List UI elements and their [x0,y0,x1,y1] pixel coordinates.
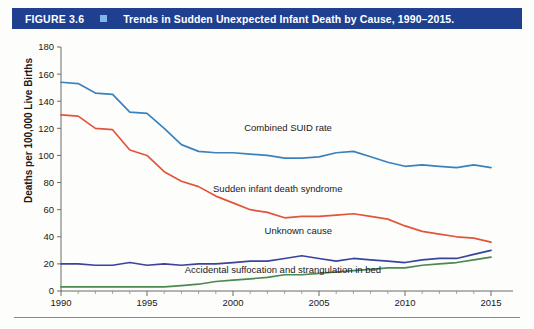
x-tick-label: 2000 [222,297,243,308]
figure-number-label: FIGURE 3.6 [25,13,84,25]
series-label-3: Unknown cause [265,225,333,236]
y-tick-label: 100 [38,150,54,161]
y-tick-label: 20 [43,258,54,269]
line-chart: 0204060801001201401601801990199520002005… [0,29,534,309]
bottom-divider [14,317,520,318]
y-tick-label: 120 [38,123,54,134]
figure-title: Trends in Sudden Unexpected Infant Death… [123,13,454,25]
x-tick-label: 1995 [136,297,157,308]
y-tick-label: 80 [43,177,54,188]
series-line-3 [61,250,491,265]
x-tick-label: 2015 [480,297,501,308]
series-label-4: Accidental suffocation and strangulation… [185,264,381,275]
y-tick-label: 40 [43,231,54,242]
x-tick-label: 2010 [394,297,415,308]
square-bullet-icon [100,15,107,22]
y-tick-label: 180 [38,41,54,52]
y-tick-label: 160 [38,69,54,80]
y-tick-label: 0 [49,285,54,296]
series-line-2 [61,115,491,242]
series-label-1: Combined SUID rate [244,122,332,133]
chart-plot-area: Deaths per 100,000 Live Births 020406080… [0,29,534,309]
figure-container: FIGURE 3.6 Trends in Sudden Unexpected I… [0,0,534,329]
x-tick-label: 2005 [308,297,329,308]
figure-header: FIGURE 3.6 Trends in Sudden Unexpected I… [12,8,522,29]
x-tick-label: 1990 [50,297,71,308]
y-tick-label: 60 [43,204,54,215]
y-tick-label: 140 [38,96,54,107]
series-label-2: Sudden infant death syndrome [213,183,342,194]
